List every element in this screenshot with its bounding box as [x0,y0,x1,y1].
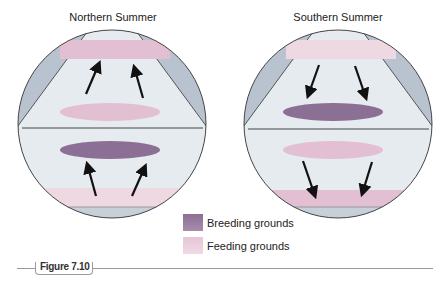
feeding-band-south [20,188,210,207]
feeding-band-north [286,40,396,59]
legend-swatch-feeding [183,237,203,254]
feeding-grounds-ellipse [60,103,160,121]
figure-label: Figure 7.10 [40,261,90,272]
feeding-band-south [246,190,436,207]
feeding-grounds-ellipse [283,141,383,159]
breeding-grounds-ellipse [283,103,383,121]
legend-label-breeding: Breeding grounds [207,217,294,229]
legend-swatch-breeding [183,214,203,231]
globe-southern-summer [238,28,438,230]
legend-label-feeding: Feeding grounds [207,240,290,252]
caption-rule-right [92,268,433,269]
globe-bottom-region [20,207,210,222]
feeding-band-north [60,40,170,59]
globe-northern-summer [12,28,212,230]
breeding-grounds-ellipse [60,141,160,159]
caption-rule-left [17,268,36,269]
